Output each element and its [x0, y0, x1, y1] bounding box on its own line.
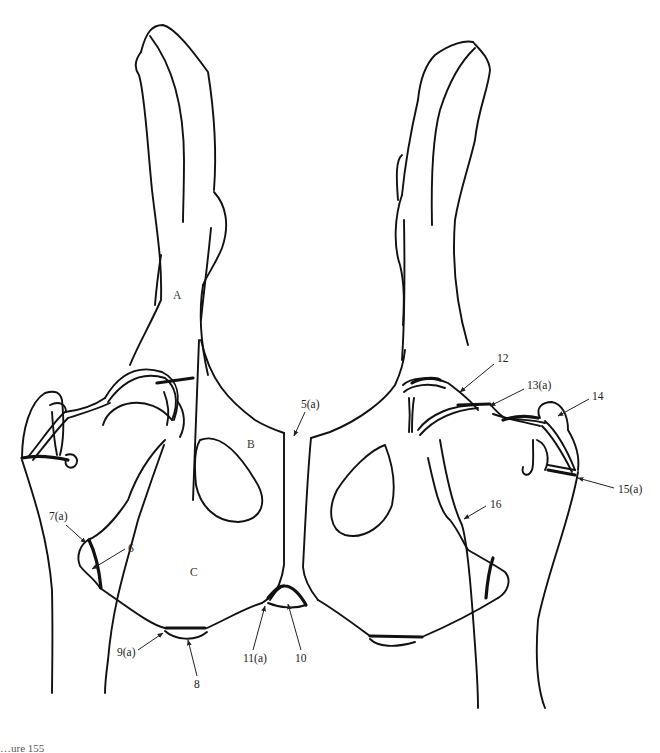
svg-text:8: 8 — [194, 678, 200, 690]
region-a: A — [173, 289, 182, 301]
region-b: B — [247, 438, 255, 450]
svg-text:15(a): 15(a) — [618, 483, 642, 496]
label-13a: 13(a) — [490, 379, 551, 406]
label-12: 12 — [460, 352, 509, 392]
label-8: 8 — [188, 640, 200, 690]
label-10: 10 — [288, 604, 307, 664]
left-ilium — [22, 25, 306, 693]
svg-text:16: 16 — [490, 498, 502, 510]
pelvis-diagram: …ure 155 A B C 5(a) 6 7(a) 8 9(a) 10 11(… — [0, 0, 660, 753]
figure-caption: …ure 155 — [0, 742, 45, 753]
label-16: 16 — [464, 498, 502, 519]
svg-text:11(a): 11(a) — [243, 652, 267, 665]
svg-text:14: 14 — [592, 390, 604, 402]
svg-text:5(a): 5(a) — [301, 398, 320, 411]
right-ilium — [303, 42, 578, 708]
label-9a: 9(a) — [117, 633, 163, 659]
label-5a: 5(a) — [294, 398, 320, 436]
label-7a: 7(a) — [49, 510, 86, 543]
label-15a: 15(a) — [578, 478, 642, 496]
svg-text:6: 6 — [128, 542, 134, 554]
svg-text:13(a): 13(a) — [527, 379, 551, 392]
svg-text:7(a): 7(a) — [49, 510, 68, 523]
label-14: 14 — [558, 390, 604, 416]
region-c: C — [190, 566, 198, 578]
svg-text:9(a): 9(a) — [117, 646, 136, 659]
svg-text:12: 12 — [497, 352, 509, 364]
svg-text:10: 10 — [295, 652, 307, 664]
label-11a: 11(a) — [243, 606, 267, 665]
